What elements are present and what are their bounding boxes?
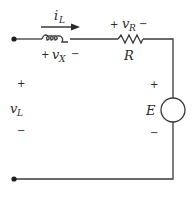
inductor-voltage-sub: X <box>58 54 66 64</box>
resistor-symbol <box>118 35 143 43</box>
voltage-source-symbol <box>161 98 185 122</box>
inductor-symbol <box>42 35 68 42</box>
resistor-voltage-plus: + <box>110 19 118 30</box>
current-label-sub: L <box>58 15 65 25</box>
terminal-top-dot <box>11 36 16 41</box>
terminal-voltage-plus: + <box>17 78 25 89</box>
resistor-voltage-minus: − <box>139 18 147 29</box>
inductor-voltage-minus: − <box>71 48 79 59</box>
inductor-voltage-plus: + <box>41 49 49 60</box>
resistor-voltage-sub: R <box>128 23 136 33</box>
source-minus: − <box>150 127 158 138</box>
resistor-name-label: R <box>123 48 134 63</box>
circuit-diagram: i L + v X − + v R − R + v L − + E − <box>0 0 196 197</box>
terminal-voltage-sub: L <box>16 108 23 118</box>
current-arrow-head-icon <box>71 24 80 31</box>
terminal-voltage-minus: − <box>17 125 25 136</box>
source-plus: + <box>150 79 158 90</box>
current-label: i <box>54 8 58 23</box>
source-label: E <box>145 103 156 118</box>
terminal-bottom-dot <box>11 176 16 181</box>
